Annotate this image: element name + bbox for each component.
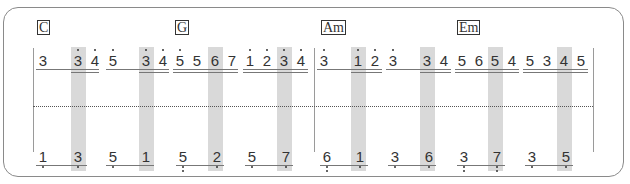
melody-note: 4 bbox=[557, 53, 571, 68]
octave-dot-icon bbox=[565, 166, 567, 168]
beam-underline bbox=[525, 165, 573, 166]
barline bbox=[593, 48, 594, 152]
octave-dot-icon bbox=[145, 49, 147, 51]
beam-underline bbox=[351, 69, 382, 70]
beam-underline bbox=[139, 72, 169, 73]
octave-dot-icon bbox=[323, 49, 325, 51]
octave-dot-icon bbox=[392, 49, 394, 51]
octave-dot-icon bbox=[394, 166, 396, 168]
bass-note: 5 bbox=[245, 149, 259, 164]
beam-underline bbox=[106, 165, 154, 166]
bass-note: 1 bbox=[139, 149, 153, 164]
beam-underline bbox=[320, 165, 368, 166]
octave-dot-icon bbox=[359, 166, 361, 168]
octave-dot-icon bbox=[428, 166, 430, 168]
beam-underline bbox=[36, 165, 87, 166]
octave-dot-icon bbox=[216, 166, 218, 168]
beam-underline bbox=[139, 69, 169, 70]
chord-label: Am bbox=[321, 20, 346, 35]
bass-note: 5 bbox=[176, 149, 190, 164]
octave-dot-icon bbox=[285, 166, 287, 168]
octave-dot-icon bbox=[251, 166, 253, 168]
octave-dot-icon bbox=[463, 170, 465, 172]
octave-dot-icon bbox=[77, 49, 79, 51]
octave-dot-icon bbox=[112, 166, 114, 168]
bass-note: 7 bbox=[279, 149, 293, 164]
bass-note: 3 bbox=[71, 149, 85, 164]
bass-note: 3 bbox=[457, 149, 471, 164]
octave-dot-icon bbox=[112, 49, 114, 51]
bass-note: 3 bbox=[388, 149, 402, 164]
bass-note: 3 bbox=[525, 149, 539, 164]
melody-note: 5 bbox=[488, 53, 502, 68]
beam-underline bbox=[243, 72, 308, 73]
melody-note: 2 bbox=[368, 53, 382, 68]
barline bbox=[314, 48, 315, 152]
melody-note: 7 bbox=[225, 53, 239, 68]
melody-note: 3 bbox=[139, 53, 153, 68]
bass-note: 5 bbox=[106, 149, 120, 164]
bass-note: 2 bbox=[210, 149, 224, 164]
melody-note: 5 bbox=[173, 53, 187, 68]
octave-dot-icon bbox=[283, 49, 285, 51]
bass-note: 5 bbox=[559, 149, 573, 164]
melody-note: 6 bbox=[208, 53, 222, 68]
melody-note: 4 bbox=[156, 53, 170, 68]
melody-note: 3 bbox=[386, 53, 400, 68]
octave-dot-icon bbox=[249, 49, 251, 51]
chord-label: Em bbox=[457, 20, 480, 35]
bass-note: 6 bbox=[320, 149, 334, 164]
melody-note: 3 bbox=[540, 53, 554, 68]
melody-note: 3 bbox=[420, 53, 434, 68]
octave-dot-icon bbox=[94, 49, 96, 51]
barline bbox=[33, 48, 34, 152]
melody-note: 5 bbox=[455, 53, 469, 68]
beam-underline bbox=[457, 165, 505, 166]
melody-note: 4 bbox=[505, 53, 519, 68]
octave-dot-icon bbox=[374, 49, 376, 51]
melody-note: 1 bbox=[351, 53, 365, 68]
melody-note: 5 bbox=[190, 53, 204, 68]
bass-note: 1 bbox=[36, 149, 50, 164]
melody-note: 4 bbox=[294, 53, 308, 68]
melody-note: 5 bbox=[574, 53, 588, 68]
bass-note: 6 bbox=[422, 149, 436, 164]
octave-dot-icon bbox=[463, 166, 465, 168]
bass-note: 1 bbox=[353, 149, 367, 164]
melody-note: 6 bbox=[472, 53, 486, 68]
beam-underline bbox=[523, 69, 588, 70]
octave-dot-icon bbox=[182, 170, 184, 172]
bass-note: 7 bbox=[490, 149, 504, 164]
octave-dot-icon bbox=[162, 49, 164, 51]
divider-dotted-line bbox=[33, 106, 593, 107]
melody-note: 5 bbox=[523, 53, 537, 68]
melody-note: 3 bbox=[317, 53, 331, 68]
octave-dot-icon bbox=[179, 49, 181, 51]
melody-note: 2 bbox=[260, 53, 274, 68]
chord-label: G bbox=[175, 20, 189, 35]
octave-dot-icon bbox=[326, 166, 328, 168]
beam-underline bbox=[388, 165, 436, 166]
octave-dot-icon bbox=[496, 166, 498, 168]
beam-underline bbox=[523, 72, 588, 73]
octave-dot-icon bbox=[326, 170, 328, 172]
octave-dot-icon bbox=[531, 166, 533, 168]
melody-note: 3 bbox=[71, 53, 85, 68]
octave-dot-icon bbox=[42, 166, 44, 168]
beam-underline bbox=[351, 72, 382, 73]
beam-underline bbox=[173, 69, 238, 70]
melody-note: 4 bbox=[437, 53, 451, 68]
beam-underline bbox=[245, 165, 293, 166]
melody-note: 3 bbox=[277, 53, 291, 68]
melody-note: 1 bbox=[243, 53, 257, 68]
beam-underline bbox=[243, 69, 308, 70]
melody-note: 4 bbox=[88, 53, 102, 68]
beam-underline bbox=[455, 72, 519, 73]
beam-underline bbox=[71, 69, 99, 70]
beam-underline bbox=[173, 72, 238, 73]
beam-underline bbox=[176, 165, 224, 166]
octave-dot-icon bbox=[300, 49, 302, 51]
octave-dot-icon bbox=[266, 49, 268, 51]
melody-note: 3 bbox=[36, 53, 50, 68]
beam-underline bbox=[455, 69, 519, 70]
